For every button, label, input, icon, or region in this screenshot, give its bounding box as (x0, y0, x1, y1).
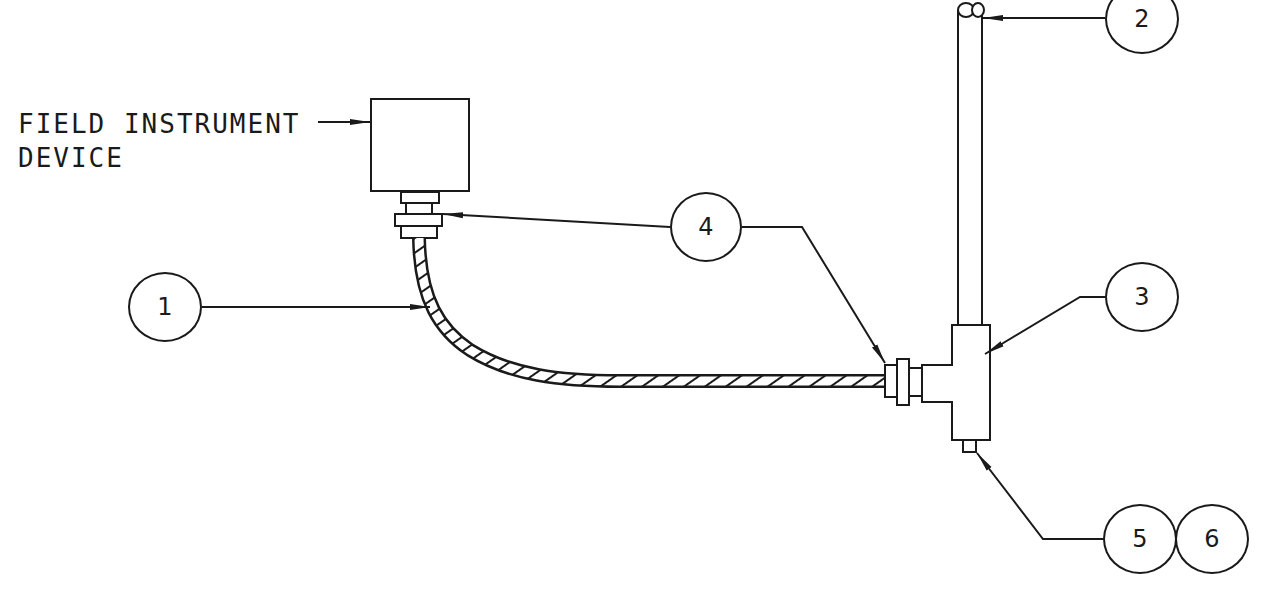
vertical-pipe (958, 3, 984, 325)
balloon-5: 5 (1103, 504, 1177, 574)
tee-fitting (922, 325, 990, 440)
device-connector (395, 192, 442, 238)
label-line-1: FIELD INSTRUMENT (18, 107, 300, 141)
field-instrument-box (371, 99, 469, 191)
leader-4a (443, 214, 670, 227)
flexible-conduit (419, 238, 885, 381)
tee-bottom-plug (963, 440, 976, 452)
balloon-6: 6 (1175, 504, 1249, 574)
leader-5-6 (977, 453, 1104, 539)
label-line-2: DEVICE (18, 141, 300, 175)
leader-4b (742, 227, 885, 363)
balloon-4: 4 (670, 192, 742, 262)
field-instrument-label: FIELD INSTRUMENT DEVICE (18, 107, 300, 175)
balloon-3: 3 (1105, 262, 1179, 332)
leader-3 (985, 297, 1105, 354)
balloon-1: 1 (128, 272, 202, 342)
tee-connector (885, 359, 922, 405)
